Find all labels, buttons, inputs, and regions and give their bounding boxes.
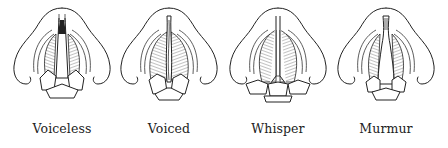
label-murmur: Murmur: [332, 121, 440, 136]
larynx-whisper-illustration: [224, 4, 332, 104]
label-voiceless: Voiceless: [8, 121, 116, 136]
label-voiced: Voiced: [115, 121, 223, 136]
larynx-voiceless-illustration: [8, 4, 116, 104]
panel-murmur: Murmur: [332, 0, 440, 148]
panel-whisper: Whisper: [224, 0, 332, 148]
larynx-voiced-illustration: [115, 4, 223, 104]
label-whisper: Whisper: [224, 121, 332, 136]
larynx-murmur-illustration: [332, 4, 440, 104]
panel-voiceless: Voiceless: [8, 0, 116, 148]
panel-voiced: Voiced: [115, 0, 223, 148]
